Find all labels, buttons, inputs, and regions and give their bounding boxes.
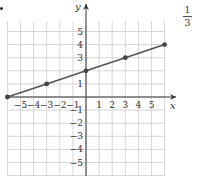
y-tick-label: −1 bbox=[70, 105, 83, 115]
y-tick-label: 4 bbox=[77, 40, 83, 50]
data-point bbox=[123, 55, 128, 60]
fraction-denominator: 3 bbox=[183, 17, 192, 29]
x-tick-label: 3 bbox=[122, 100, 128, 110]
coordinate-graph: xy−5−4−3−2−1123455431−1−2−3−4−5 bbox=[0, 0, 198, 176]
data-point bbox=[44, 82, 49, 87]
data-point bbox=[84, 68, 89, 73]
y-tick-label: −5 bbox=[70, 158, 84, 168]
x-tick-label: −4 bbox=[27, 100, 41, 110]
y-axis-label: y bbox=[74, 1, 81, 12]
x-tick-label: −3 bbox=[40, 100, 54, 110]
fraction-numerator: 1 bbox=[183, 4, 192, 16]
y-tick-label: 1 bbox=[77, 79, 83, 89]
y-tick-label: 5 bbox=[77, 27, 83, 37]
x-tick-label: −5 bbox=[14, 100, 28, 110]
y-tick-label: −4 bbox=[70, 144, 84, 154]
x-tick-label: 5 bbox=[149, 100, 155, 110]
y-tick-label: 3 bbox=[77, 53, 83, 63]
x-tick-label: 2 bbox=[109, 100, 115, 110]
fraction-one-third: 1 3 bbox=[183, 4, 192, 29]
y-tick-label: −2 bbox=[70, 118, 83, 128]
data-point bbox=[162, 42, 167, 47]
x-tick-label: 1 bbox=[96, 100, 102, 110]
data-point bbox=[5, 95, 10, 100]
x-tick-label: 4 bbox=[136, 100, 142, 110]
y-tick-label: −3 bbox=[70, 131, 84, 141]
x-axis-label: x bbox=[170, 100, 176, 111]
x-tick-label: −2 bbox=[53, 100, 66, 110]
